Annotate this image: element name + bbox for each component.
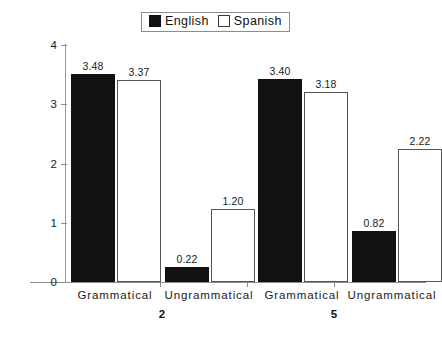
chart-legend: English Spanish bbox=[141, 12, 290, 32]
group-separator-3 bbox=[334, 282, 335, 287]
plot-area: 3.48 3.37 0.22 1.20 3.40 3.18 0.82 2.22 bbox=[66, 45, 424, 282]
x-label-grammatical-1: Grammatical bbox=[77, 289, 152, 301]
y-tick-label-4: 4 bbox=[51, 39, 57, 51]
bar-value-english-g1: 3.48 bbox=[82, 60, 103, 72]
bar-value-spanish-g3: 3.18 bbox=[315, 78, 336, 90]
legend-label-english: English bbox=[165, 15, 209, 28]
group-label-2: 2 bbox=[159, 308, 165, 320]
legend-swatch-filled-icon bbox=[149, 15, 161, 27]
y-tick-label-1: 1 bbox=[51, 217, 57, 229]
bar-value-english-g2: 0.22 bbox=[176, 253, 197, 265]
legend-item-english: English bbox=[149, 15, 209, 28]
bar-english-g2: 0.22 bbox=[165, 267, 209, 282]
bar-value-spanish-g1: 3.37 bbox=[128, 66, 149, 78]
bar-spanish-g3: 3.18 bbox=[304, 92, 348, 282]
group-separator-2 bbox=[247, 282, 248, 287]
y-tick-label-3: 3 bbox=[51, 98, 57, 110]
group-label-5: 5 bbox=[331, 308, 337, 320]
bar-value-english-g4: 0.82 bbox=[363, 217, 384, 229]
x-axis-line bbox=[30, 282, 426, 283]
group-separator-1 bbox=[160, 282, 161, 287]
bar-value-spanish-g2: 1.20 bbox=[222, 195, 243, 207]
x-label-grammatical-2: Grammatical bbox=[264, 289, 339, 301]
y-tick-label-0: 0 bbox=[51, 276, 57, 288]
bar-value-spanish-g4: 2.22 bbox=[409, 135, 430, 147]
legend-item-spanish: Spanish bbox=[218, 15, 282, 28]
x-label-ungrammatical-1: Ungrammatical bbox=[164, 289, 253, 301]
legend-label-spanish: Spanish bbox=[234, 15, 282, 28]
bar-spanish-g2: 1.20 bbox=[211, 209, 255, 282]
bar-english-g3: 3.40 bbox=[258, 79, 302, 282]
legend-swatch-open-icon bbox=[218, 15, 230, 27]
bar-english-g4: 0.82 bbox=[352, 231, 396, 282]
bar-value-english-g3: 3.40 bbox=[269, 65, 290, 77]
bar-english-g1: 3.48 bbox=[71, 74, 115, 282]
y-tick-label-2: 2 bbox=[51, 158, 57, 170]
bar-spanish-g1: 3.37 bbox=[117, 80, 161, 282]
bar-spanish-g4: 2.22 bbox=[398, 149, 442, 283]
x-label-ungrammatical-2: Ungrammatical bbox=[347, 289, 436, 301]
